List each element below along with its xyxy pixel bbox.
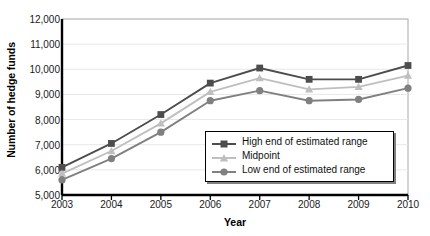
legend-marker-triangle-icon [211, 150, 237, 162]
x-tick-label: 2005 [150, 199, 172, 210]
x-axis-title: Year [62, 216, 408, 228]
chart-legend: High end of estimated range Midpoint Low… [205, 131, 394, 182]
legend-label-midpoint: Midpoint [242, 150, 280, 162]
legend-marker-circle-icon [211, 164, 237, 176]
x-tick-label: 2010 [397, 199, 419, 210]
legend-label-low: Low end of estimated range [242, 164, 365, 176]
data-point-marker [108, 140, 115, 147]
data-point-marker [207, 80, 214, 87]
legend-item-midpoint: Midpoint [211, 149, 388, 163]
data-point-marker [404, 85, 411, 92]
legend-marker-square-icon [211, 136, 237, 148]
data-point-marker [256, 65, 263, 72]
x-tick-label: 2006 [199, 199, 221, 210]
data-point-marker [355, 76, 362, 83]
data-point-marker [157, 111, 164, 118]
legend-item-high: High end of estimated range [211, 135, 388, 149]
data-point-marker [58, 176, 65, 183]
data-point-marker [256, 87, 263, 94]
data-point-marker [306, 97, 313, 104]
x-tick-label: 2008 [298, 199, 320, 210]
x-tick-label: 2004 [100, 199, 122, 210]
data-point-marker [306, 76, 313, 83]
legend-label-high: High end of estimated range [242, 136, 368, 148]
x-tick-label: 2009 [347, 199, 369, 210]
data-point-marker [207, 97, 214, 104]
data-point-marker [405, 62, 412, 69]
data-point-marker [355, 96, 362, 103]
x-tick-label: 2003 [51, 199, 73, 210]
chart-figure: Number of hedge funds 5,0006,0007,0008,0… [0, 0, 430, 236]
data-point-marker [108, 155, 115, 162]
data-point-marker [157, 129, 164, 136]
x-tick-label: 2007 [249, 199, 271, 210]
legend-item-low: Low end of estimated range [211, 163, 388, 177]
